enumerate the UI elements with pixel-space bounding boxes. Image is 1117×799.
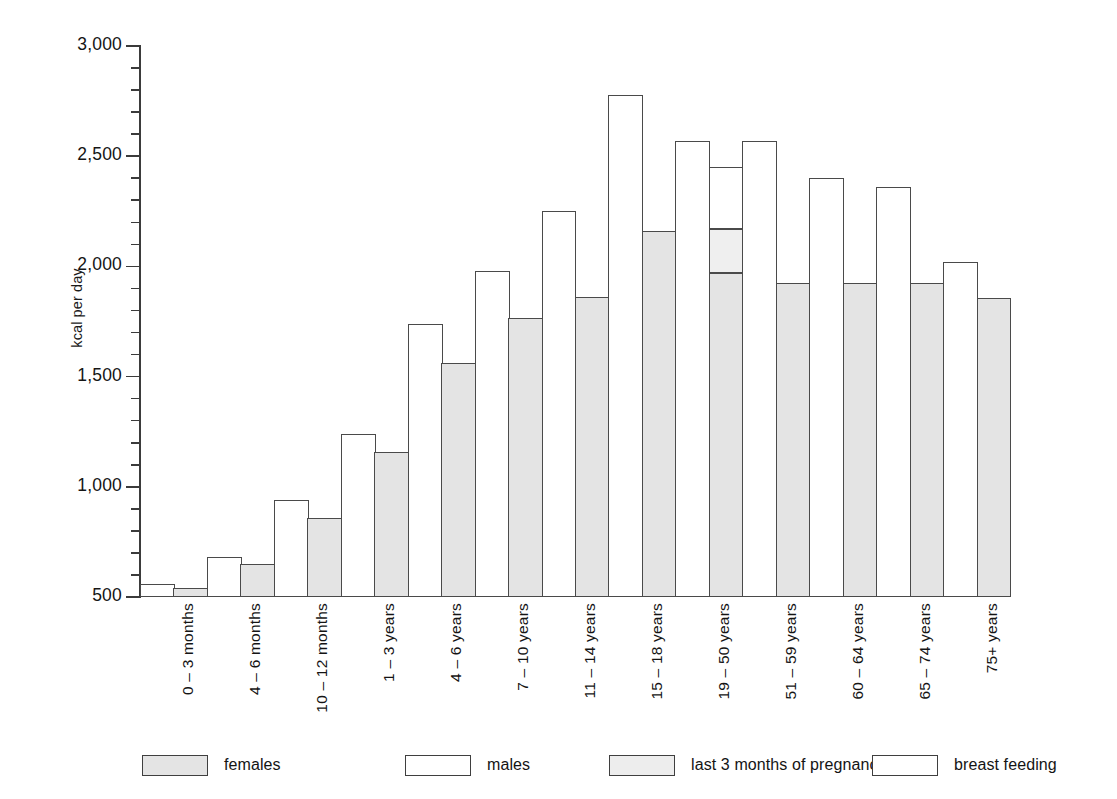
x-axis-category-label: 10 – 12 months: [313, 603, 331, 713]
legend-label: last 3 months of pregnancy: [691, 756, 886, 774]
legend-item: males: [405, 751, 530, 779]
legend-label: females: [224, 756, 281, 774]
legend-item: breast feeding: [872, 751, 1057, 779]
legend-item: females: [142, 751, 281, 779]
legend-label: males: [487, 756, 530, 774]
bar-chart: kcal per day 5001,0001,5002,0002,5003,00…: [0, 0, 1117, 799]
chart-legend: femalesmaleslast 3 months of pregnancybr…: [0, 751, 1117, 785]
x-axis-category-label: 60 – 64 years: [849, 603, 867, 700]
x-axis-category-label: 51 – 59 years: [782, 603, 800, 700]
x-axis-category-label: 4 – 6 months: [246, 603, 264, 695]
x-axis-category-label: 11 – 14 years: [581, 603, 599, 698]
legend-label: breast feeding: [954, 756, 1057, 774]
x-axis-category-label: 19 – 50 years: [715, 603, 733, 700]
x-axis-category-labels: 0 – 3 months4 – 6 months10 – 12 months1 …: [0, 0, 1117, 799]
legend-swatch-males: [405, 755, 471, 776]
x-axis-category-label: 15 – 18 years: [648, 603, 666, 700]
x-axis-category-label: 1 – 3 years: [380, 603, 398, 682]
x-axis-category-label: 4 – 6 years: [447, 603, 465, 682]
x-axis-category-label: 65 – 74 years: [916, 603, 934, 700]
legend-swatch-breast: [872, 755, 938, 776]
x-axis-category-label: 75+ years: [983, 603, 1001, 673]
x-axis-category-label: 0 – 3 months: [179, 603, 197, 695]
x-axis-category-label: 7 – 10 years: [514, 603, 532, 691]
legend-swatch-pregnancy: [609, 755, 675, 776]
legend-swatch-females: [142, 755, 208, 776]
legend-item: last 3 months of pregnancy: [609, 751, 886, 779]
